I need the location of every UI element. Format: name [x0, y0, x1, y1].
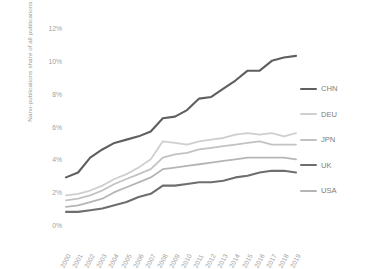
- x-axis-tick-label: 2008: [156, 253, 169, 269]
- x-axis-tick-label: 2011: [192, 253, 205, 269]
- y-axis-tick-label: 12%: [36, 25, 62, 32]
- x-axis-tick-label: 2005: [119, 253, 132, 269]
- legend-swatch-icon: [300, 139, 317, 141]
- legend-item-chn[interactable]: CHN: [300, 76, 367, 102]
- legend: CHNDEUJPNUKUSA: [300, 76, 367, 204]
- legend-item-label: UK: [321, 161, 332, 170]
- series-canvas: [66, 28, 296, 225]
- legend-item-label: DEU: [321, 110, 337, 119]
- x-axis-tick-label: 2003: [95, 253, 108, 269]
- x-axis-tick-label: 2015: [240, 253, 253, 269]
- x-axis-tick-label: 2012: [204, 253, 217, 269]
- series-line-usa: [66, 158, 296, 207]
- x-axis-tick-label: 2001: [71, 253, 84, 269]
- y-axis-tick-label: 8%: [36, 90, 62, 97]
- y-axis-tick-label: 0%: [36, 222, 62, 229]
- x-axis-tick-label: 2006: [131, 253, 144, 269]
- legend-swatch-icon: [300, 164, 317, 166]
- y-axis-tick-label: 10%: [36, 57, 62, 64]
- series-line-chn: [66, 56, 296, 177]
- x-axis-tick-label: 2007: [144, 253, 157, 269]
- legend-item-label: CHN: [321, 84, 337, 93]
- legend-item-jpn[interactable]: JPN: [300, 127, 367, 153]
- y-axis-tick-label: 6%: [36, 123, 62, 130]
- y-axis-tick-group: 0%2%4%6%8%10%12%: [36, 0, 62, 269]
- x-axis-tick-label: 2002: [83, 253, 96, 269]
- legend-item-uk[interactable]: UK: [300, 153, 367, 179]
- y-axis-tick-label: 4%: [36, 156, 62, 163]
- x-axis-tick-label: 2013: [216, 253, 229, 269]
- x-axis-tick-label: 2017: [265, 253, 278, 269]
- x-axis-tick-label: 2009: [168, 253, 181, 269]
- x-axis-tick-label: 2019: [289, 253, 302, 269]
- legend-item-deu[interactable]: DEU: [300, 102, 367, 128]
- legend-item-label: JPN: [321, 135, 335, 144]
- x-axis-tick-label: 2010: [180, 253, 193, 269]
- x-axis-tick-label: 2004: [107, 253, 120, 269]
- legend-swatch-icon: [300, 190, 317, 192]
- y-axis-tick-label: 2%: [36, 189, 62, 196]
- y-axis-title: Nano-publications share of all publicati…: [26, 0, 34, 134]
- line-chart: 0%2%4%6%8%10%12% Nano-publications share…: [0, 0, 367, 269]
- legend-item-usa[interactable]: USA: [300, 178, 367, 204]
- x-axis-tick-label: 2016: [252, 253, 265, 269]
- x-axis-tick-group: 2000200120022003200420052006200720082009…: [66, 227, 296, 269]
- legend-swatch-icon: [300, 88, 317, 90]
- legend-swatch-icon: [300, 113, 317, 115]
- x-axis-tick-label: 2018: [277, 253, 290, 269]
- legend-item-label: USA: [321, 186, 337, 195]
- x-axis-tick-label: 2014: [228, 253, 241, 269]
- plot-area: [66, 28, 296, 225]
